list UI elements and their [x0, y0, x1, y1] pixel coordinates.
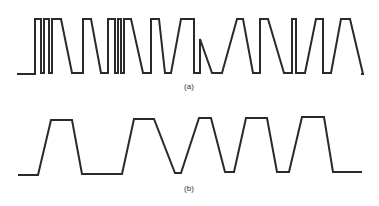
waveform-b-label: (b) — [184, 184, 194, 193]
waveform-b-trapezoidal-train — [0, 0, 379, 206]
waveform-b-trace — [18, 117, 362, 175]
waveform-figure: (a) (b) — [0, 0, 379, 206]
